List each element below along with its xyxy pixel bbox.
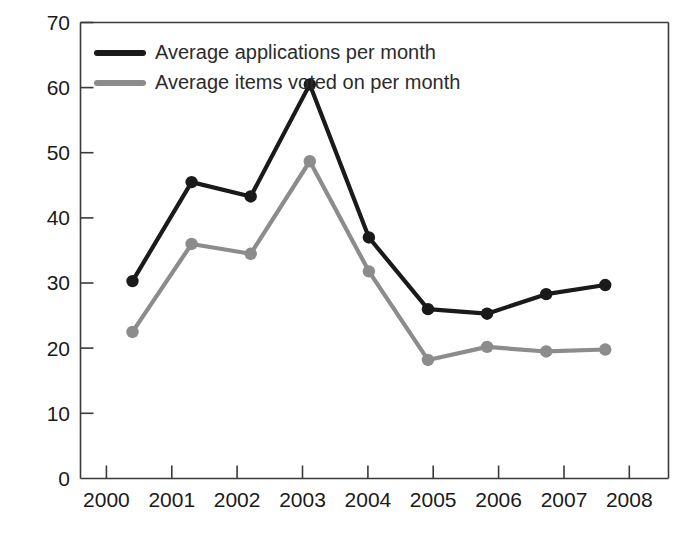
chart-canvas: 70 60 50 40 30 20 10 0 2000 2001 2002 2 bbox=[0, 0, 686, 533]
data-point bbox=[481, 307, 493, 319]
data-point bbox=[481, 341, 493, 353]
x-tick-label-2007: 2007 bbox=[541, 488, 588, 511]
series-line bbox=[133, 161, 606, 360]
legend-label-items-voted: Average items voted on per month bbox=[155, 71, 460, 93]
data-point bbox=[422, 354, 434, 366]
y-tick-label-40: 40 bbox=[47, 206, 70, 229]
series-line bbox=[133, 84, 606, 313]
data-point bbox=[363, 265, 375, 277]
y-tick-label-10: 10 bbox=[47, 402, 70, 425]
y-tick-label-70: 70 bbox=[47, 11, 70, 34]
x-tick-label-2003: 2003 bbox=[279, 488, 326, 511]
data-point bbox=[126, 275, 138, 287]
y-tick-label-60: 60 bbox=[47, 76, 70, 99]
x-tick-label-2005: 2005 bbox=[410, 488, 457, 511]
data-point bbox=[422, 303, 434, 315]
x-tick-label-2006: 2006 bbox=[475, 488, 522, 511]
legend-label-applications: Average applications per month bbox=[155, 41, 436, 63]
x-tick-label-2001: 2001 bbox=[148, 488, 195, 511]
data-point bbox=[126, 326, 138, 338]
data-point bbox=[244, 190, 256, 202]
x-tick-label-2002: 2002 bbox=[214, 488, 261, 511]
x-axis-tick-labels: 2000 2001 2002 2003 2004 2005 2006 2007 … bbox=[83, 488, 653, 511]
x-axis-ticks bbox=[106, 466, 629, 479]
line-chart: 70 60 50 40 30 20 10 0 2000 2001 2002 2 bbox=[0, 0, 686, 533]
series-applications bbox=[126, 78, 611, 320]
data-point bbox=[185, 176, 197, 188]
data-point bbox=[599, 279, 611, 291]
y-axis-tick-labels: 70 60 50 40 30 20 10 0 bbox=[47, 11, 70, 490]
y-tick-label-0: 0 bbox=[58, 467, 70, 490]
data-point bbox=[540, 345, 552, 357]
x-tick-label-2004: 2004 bbox=[345, 488, 392, 511]
series-items-voted bbox=[126, 155, 611, 366]
data-point bbox=[304, 155, 316, 167]
data-point bbox=[363, 231, 375, 243]
data-point bbox=[540, 288, 552, 300]
x-tick-label-2008: 2008 bbox=[606, 488, 653, 511]
data-point bbox=[599, 343, 611, 355]
data-point bbox=[244, 248, 256, 260]
y-tick-label-20: 20 bbox=[47, 337, 70, 360]
data-point bbox=[185, 238, 197, 250]
x-tick-label-2000: 2000 bbox=[83, 488, 130, 511]
data-series-layer bbox=[126, 78, 611, 366]
chart-legend: Average applications per month Average i… bbox=[97, 41, 460, 93]
y-axis-ticks bbox=[81, 23, 94, 414]
y-tick-label-50: 50 bbox=[47, 141, 70, 164]
y-tick-label-30: 30 bbox=[47, 271, 70, 294]
